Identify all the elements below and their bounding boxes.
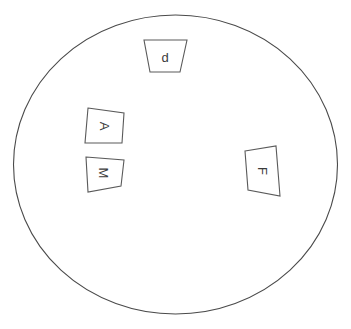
marker-f-label: F <box>255 167 270 175</box>
marker-a: A <box>85 108 124 143</box>
diagram-canvas: d A M F <box>0 0 351 329</box>
marker-d-label: d <box>161 50 168 65</box>
figure-svg: d A M F <box>0 0 351 329</box>
marker-d: d <box>144 40 187 72</box>
marker-a-label: A <box>97 122 112 131</box>
marker-m-label: M <box>96 168 111 179</box>
marker-f: F <box>245 146 280 196</box>
marker-m: M <box>86 157 124 192</box>
